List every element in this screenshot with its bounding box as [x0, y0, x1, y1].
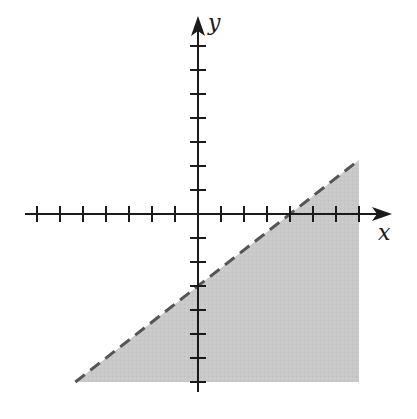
x-axis-label: x — [378, 220, 391, 245]
y-axis-label: y — [207, 10, 221, 35]
inequality-graph: x y — [0, 0, 417, 419]
